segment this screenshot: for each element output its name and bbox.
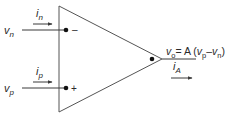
noninverting-terminal-dot xyxy=(64,86,69,91)
ip-label: ip xyxy=(36,65,43,80)
in-label: in xyxy=(36,7,43,22)
op-amp-diagram: – vn in + vp ip vo= A (vp–vn) iA xyxy=(0,0,229,121)
vp-label: vp xyxy=(4,82,15,97)
inverting-terminal-dot xyxy=(64,28,69,33)
inverting-sign: – xyxy=(72,24,78,35)
op-amp-body xyxy=(59,6,162,112)
output: vo= A (vp–vn) iA xyxy=(150,45,225,78)
noninverting-sign: + xyxy=(71,83,77,94)
ia-label: iA xyxy=(173,60,181,75)
vn-label: vn xyxy=(4,24,15,39)
output-equation: vo= A (vp–vn) xyxy=(166,45,225,60)
output-terminal-dot xyxy=(150,57,155,62)
